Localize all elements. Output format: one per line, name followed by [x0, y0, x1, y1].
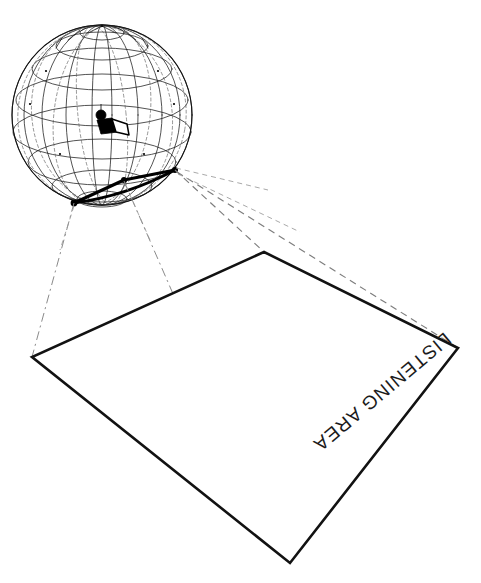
diagram-root: LISTENING AREA	[0, 0, 481, 583]
ray-fan-b	[176, 168, 268, 190]
sphere-polar-cap	[56, 26, 148, 48]
listening-area-quad	[32, 252, 458, 563]
loudspeaker-icon	[96, 104, 129, 135]
listening-area-diagram: LISTENING AREA	[0, 0, 481, 583]
ray-arc-right-to-top-corner	[175, 170, 264, 252]
